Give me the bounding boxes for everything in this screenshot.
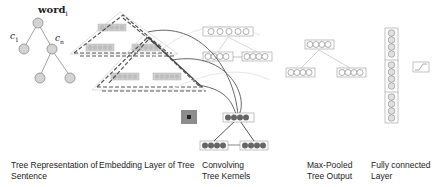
left-child-node-icon [19,44,29,54]
grandchild-node-icon [35,73,45,83]
embedding-vector-icon [153,73,181,80]
convolution-kernel-icon [181,110,197,124]
feature-vector-icon [223,113,254,122]
pooled-vector-icon [305,40,334,49]
right-child-node-icon [47,44,57,54]
embedding-vector-icon [98,24,126,31]
fully-connected-layer [385,28,398,123]
activation-function-icon [413,62,429,72]
tree-cnn-diagram [0,0,448,187]
feature-vector-icon [240,141,268,150]
kernel-output-tree [200,113,268,150]
max-pooled-tree [286,40,366,77]
caption-convolving-kernels: ConvolvingTree Kernels [202,160,250,182]
caption-tree-representation: Tree Representation ofSentence [11,160,98,182]
caption-embedding-layer: Embedding Layer of Tree [99,160,194,171]
kernel-vector-icon [203,27,253,36]
pooled-vector-icon [286,68,315,77]
caption-fully-connected: Fully connectedLayer [371,160,431,182]
grandchild-node-icon [65,73,75,83]
root-word-label: wordi [38,4,68,18]
pooled-vector-icon [337,68,366,77]
feature-vector-icon [200,141,228,150]
sentence-tree [19,18,75,83]
caption-max-pooled: Max-PooledTree Output [307,160,352,182]
right-child-label: cn [55,33,64,45]
kernel-tree-upper [203,27,272,61]
root-node-icon [33,18,43,28]
embedding-vector-icon [86,44,114,51]
left-child-label: c1 [10,31,19,43]
kernel-vector-icon [242,52,272,61]
